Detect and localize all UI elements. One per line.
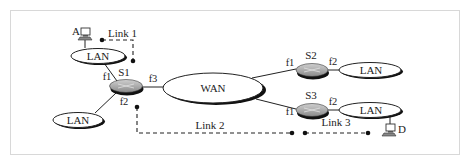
wan-to-s2-line — [252, 69, 296, 78]
s3-port-f2: f2 — [329, 96, 338, 107]
link2-end-dot — [290, 131, 295, 136]
s3-label: S3 — [305, 89, 317, 101]
lan-a: LAN — [71, 49, 127, 66]
lan-s2-label: LAN — [360, 64, 383, 76]
lan-s1-f2-label: LAN — [67, 114, 90, 126]
s3-port-f1: f1 — [286, 106, 295, 117]
link1-label: Link 1 — [108, 27, 137, 39]
s1-port-f2: f2 — [120, 96, 129, 107]
host-a-label: A — [72, 25, 80, 37]
wan-label: WAN — [200, 82, 225, 94]
host-a: A — [72, 25, 92, 40]
s2-port-f2: f2 — [329, 56, 338, 67]
s1-port-f3: f3 — [149, 73, 158, 84]
lan-s1-f2: LAN — [53, 113, 105, 130]
link1-end-dot — [131, 59, 136, 64]
lan-s2: LAN — [339, 63, 403, 80]
host-d-label: D — [398, 123, 406, 135]
link3-end-dot — [366, 131, 371, 136]
link3-start-dot — [303, 131, 308, 136]
switch-s3: S3 f1 f2 — [286, 89, 338, 120]
lan-d-label: LAN — [360, 104, 383, 116]
network-diagram: LAN LAN LAN LAN WAN S1 f1 f3 f2 S2 f1 f2 — [0, 0, 470, 164]
host-d: D — [382, 123, 406, 136]
s1-to-lan-line — [95, 93, 116, 113]
s1-label: S1 — [118, 66, 130, 78]
computer-icon — [78, 28, 92, 40]
computer-icon — [382, 124, 396, 136]
s2-label: S2 — [305, 49, 317, 61]
switch-s2: S2 f1 f2 — [286, 49, 338, 80]
link2-label: Link 2 — [195, 119, 224, 131]
s2-port-f1: f1 — [286, 57, 295, 68]
link2-start-dot — [135, 105, 140, 110]
link3-label: Link 3 — [321, 116, 351, 128]
wan-cloud: WAN — [163, 73, 266, 105]
s1-port-f1: f1 — [103, 71, 112, 82]
link1-start-dot — [100, 38, 105, 43]
lan-a-label: LAN — [87, 50, 110, 62]
